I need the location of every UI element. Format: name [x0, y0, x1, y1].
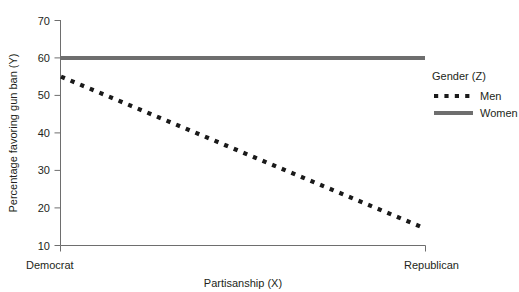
chart-background	[0, 0, 519, 292]
y-axis-title: Percentage favoring gun ban (Y)	[7, 54, 19, 213]
y-tick-label-50: 50	[38, 89, 50, 101]
x-axis-title: Partisanship (X)	[204, 277, 282, 289]
legend-title: Gender (Z)	[432, 70, 486, 82]
y-tick-label-60: 60	[38, 52, 50, 64]
x-tick-label-republican: Republican	[404, 259, 459, 271]
y-tick-label-20: 20	[38, 202, 50, 214]
line-chart: 70 60 50 40 30 20 10 Percentage favoring…	[0, 0, 519, 292]
x-tick-label-democrat: Democrat	[26, 259, 74, 271]
legend-label-women: Women	[480, 107, 518, 119]
y-tick-label-30: 30	[38, 164, 50, 176]
y-tick-label-40: 40	[38, 127, 50, 139]
y-tick-label-70: 70	[38, 15, 50, 27]
legend-label-men: Men	[480, 90, 501, 102]
y-tick-label-10: 10	[38, 240, 50, 252]
chart-figure: 70 60 50 40 30 20 10 Percentage favoring…	[0, 0, 519, 292]
